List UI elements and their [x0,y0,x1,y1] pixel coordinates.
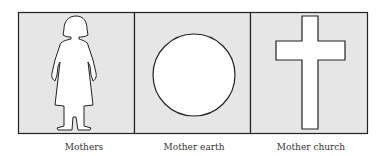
panel-mothers [19,13,135,134]
caption-mothers: Mothers [26,142,142,152]
caption-mother-earth: Mother earth [136,142,252,152]
panel-mother-church [251,13,368,134]
caption-mother-church: Mother church [253,142,369,152]
panel-mother-earth [135,13,251,134]
circle-icon [153,34,235,116]
diagram [0,0,386,156]
